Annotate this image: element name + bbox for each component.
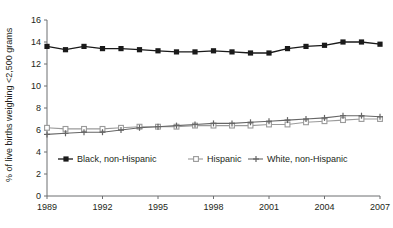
x-tick-label: 1995 [148, 202, 168, 212]
data-point-marker [45, 125, 50, 130]
data-point-marker [155, 48, 160, 53]
y-tick-label: 10 [31, 81, 41, 91]
y-tick-label: 8 [36, 103, 41, 113]
data-point-marker [211, 48, 216, 53]
data-point-marker [63, 47, 68, 52]
data-point-marker [81, 44, 86, 49]
data-point-marker [303, 44, 308, 49]
x-tick-label: 2004 [314, 202, 334, 212]
line-chart: % of live births weighing <2,500 grams 0… [0, 0, 393, 228]
legend-label: White, non-Hispanic [267, 154, 348, 164]
chart-legend: Black, non-HispanicHispanicWhite, non-Hi… [58, 154, 348, 164]
data-point-marker [174, 49, 179, 54]
x-tick-label: 1989 [37, 202, 57, 212]
x-tick-label: 2001 [259, 202, 279, 212]
x-tick-label: 2007 [370, 202, 390, 212]
data-point-marker [359, 39, 364, 44]
data-point-marker [266, 50, 271, 55]
series-3 [44, 113, 383, 138]
y-axis-ticks: 0246810121416 [31, 15, 47, 201]
series-1 [44, 39, 382, 55]
y-tick-label: 14 [31, 37, 41, 47]
legend-label: Hispanic [207, 154, 242, 164]
y-tick-label: 4 [36, 147, 41, 157]
data-point-marker [63, 156, 68, 161]
data-point-marker [322, 43, 327, 48]
x-tick-label: 1998 [203, 202, 223, 212]
data-point-marker [229, 49, 234, 54]
data-point-marker [285, 46, 290, 51]
data-point-marker [137, 47, 142, 52]
data-point-marker [248, 50, 253, 55]
legend-item-2[interactable]: Hispanic [188, 154, 242, 164]
y-tick-label: 2 [36, 169, 41, 179]
y-tick-label: 12 [31, 59, 41, 69]
chart-container: % of live births weighing <2,500 grams 0… [0, 0, 393, 228]
y-tick-label: 6 [36, 125, 41, 135]
data-point-marker [192, 49, 197, 54]
y-tick-label: 0 [36, 191, 41, 201]
y-axis-title: % of live births weighing <2,500 grams [4, 27, 14, 182]
data-point-marker [100, 46, 105, 51]
data-point-marker [44, 44, 49, 49]
data-point-marker [194, 157, 199, 162]
x-axis-ticks: 1989199219951998200120042007 [37, 196, 390, 212]
legend-item-3[interactable]: White, non-Hispanic [248, 154, 348, 164]
data-point-marker [377, 42, 382, 47]
y-tick-label: 16 [31, 15, 41, 25]
data-point-marker [118, 46, 123, 51]
x-tick-label: 1992 [92, 202, 112, 212]
data-point-marker [340, 39, 345, 44]
legend-item-1[interactable]: Black, non-Hispanic [58, 154, 157, 164]
series-layer [44, 39, 383, 137]
legend-label: Black, non-Hispanic [77, 154, 157, 164]
